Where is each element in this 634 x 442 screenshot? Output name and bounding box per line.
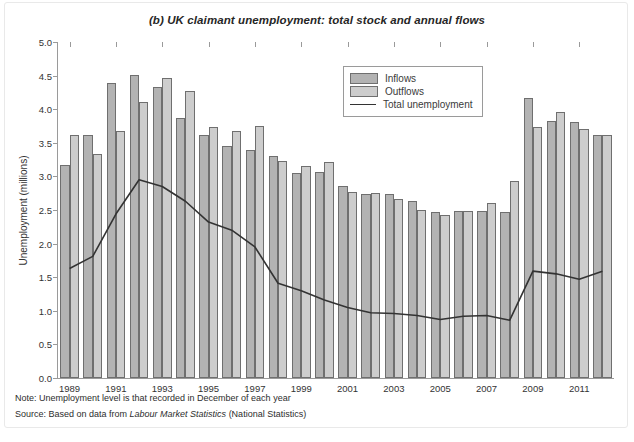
y-tick-label: 3.0 [26,171,52,182]
source-prefix: Source: Based on data from [15,409,130,419]
x-tick-label: 2011 [569,383,589,394]
legend-label-outflows: Outflows [385,86,424,97]
x-tick-label: 2003 [383,383,404,394]
legend-item-inflows: Inflows [350,72,473,85]
figure-container: (b) UK claimant unemployment: total stoc… [0,0,634,442]
x-tick-label: 1999 [291,383,312,394]
total-unemployment-line [70,180,603,320]
y-tick-label: 4.0 [26,104,52,115]
x-tick-mark [394,42,395,47]
y-tick-mark [53,42,58,43]
x-tick-mark [209,42,210,47]
x-tick-mark [70,42,71,47]
x-tick-mark [255,42,256,47]
y-tick-mark [53,76,58,77]
y-tick-mark [53,143,58,144]
y-tick-label: 1.0 [26,305,52,316]
y-tick-mark [53,378,58,379]
x-tick-label: 2005 [430,383,451,394]
line-layer [58,42,614,378]
y-tick-mark [53,210,58,211]
x-tick-label: 2007 [476,383,497,394]
y-tick-label: 0.0 [26,373,52,384]
x-tick-label: 2009 [522,383,543,394]
y-tick-mark [53,311,58,312]
legend-label-total-unemployment: Total unemployment [383,99,473,110]
y-tick-mark [53,344,58,345]
source-publication: Labour Market Statistics [130,409,227,419]
y-tick-label: 0.5 [26,339,52,350]
legend-swatch-inflows-icon [350,73,378,84]
x-tick-mark [162,42,163,47]
y-tick-mark [53,109,58,110]
x-tick-label: 2001 [337,383,358,394]
y-tick-mark [53,277,58,278]
x-tick-mark [301,42,302,47]
source-suffix: (National Statistics) [226,409,306,419]
y-tick-label: 4.5 [26,70,52,81]
legend-item-total-unemployment: Total unemployment [350,98,473,111]
x-tick-mark [440,42,441,47]
chart-source: Source: Based on data from Labour Market… [15,409,306,419]
chart-note: Note: Unemployment level is that recorde… [15,393,291,403]
x-tick-mark [487,42,488,47]
legend-swatch-line-icon [350,104,376,105]
x-tick-mark [348,42,349,47]
y-tick-label: 5.0 [26,37,52,48]
chart-legend: Inflows Outflows Total unemployment [343,66,483,117]
x-tick-mark [116,42,117,47]
legend-swatch-outflows-icon [350,86,378,97]
y-tick-mark [53,244,58,245]
legend-item-outflows: Outflows [350,85,473,98]
chart-title: (b) UK claimant unemployment: total stoc… [0,14,634,26]
x-tick-mark [579,42,580,47]
y-tick-mark [53,176,58,177]
y-tick-label: 2.5 [26,205,52,216]
y-tick-label: 2.0 [26,238,52,249]
y-tick-label: 1.5 [26,272,52,283]
legend-label-inflows: Inflows [385,73,416,84]
x-tick-mark [533,42,534,47]
y-tick-label: 3.5 [26,137,52,148]
plot-area: 0.00.51.01.52.02.53.03.54.04.55.0 198919… [57,42,614,379]
